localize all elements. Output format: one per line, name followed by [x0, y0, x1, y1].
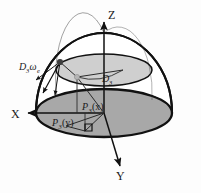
y-axis-label: Y	[116, 169, 125, 183]
figure-container: Z X Y D 3 ω e D 3 P 3 (x) P 3 (y)	[0, 0, 201, 193]
x-axis-label: X	[11, 107, 20, 121]
proj-y-label-base: P	[51, 117, 58, 128]
hemisphere-diagram: Z X Y D 3 ω e D 3 P 3 (x) P 3 (y)	[0, 0, 201, 193]
proj-x-label-base: P	[81, 101, 88, 112]
proj-y-label-arg: (y)	[62, 117, 74, 129]
vector-d3-omega-label: D 3 ω e	[18, 61, 40, 74]
dome-point-node	[57, 59, 63, 65]
z-axis-label: Z	[108, 8, 115, 22]
upper-disk-center-node	[74, 74, 79, 79]
proj-x-label-arg: (x)	[92, 101, 104, 113]
vector-d3-omega-label-omega: ω	[30, 61, 37, 72]
vector-d3-omega-label-omega-sub: e	[37, 67, 40, 74]
